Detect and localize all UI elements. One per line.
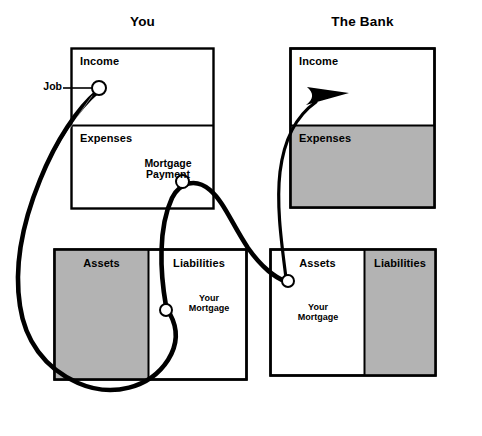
diagram-canvas xyxy=(0,0,482,436)
bank-liabilities-shaded-fill xyxy=(365,251,435,375)
bank-expenses-label: Expenses xyxy=(299,132,351,144)
cashflow-diagram: You The Bank Income Expenses Income Expe… xyxy=(0,0,482,436)
you-balance-sheet-box xyxy=(55,250,247,380)
you-liabilities-label: Liabilities xyxy=(155,257,243,269)
flow-label-job: Job xyxy=(28,81,62,92)
you-assets-label: Assets xyxy=(56,257,147,269)
panel-title-the-bank: The Bank xyxy=(290,14,435,29)
panel-title-you: You xyxy=(71,14,214,29)
you-liabilities-entry-line2: Mortgage xyxy=(175,304,243,314)
bank-income-label: Income xyxy=(299,55,338,67)
you-assets-shaded-fill xyxy=(56,251,149,379)
you-income-label: Income xyxy=(80,55,119,67)
bank-assets-node-dot xyxy=(281,274,295,288)
bank-income-statement-box xyxy=(291,49,435,208)
you-liabilities-entry: Your Mortgage xyxy=(175,294,243,313)
you-expenses-label: Expenses xyxy=(80,132,132,144)
bank-assets-entry: Your Mortgage xyxy=(283,303,353,322)
flow-label-mortgage-payment: Mortgage Payment xyxy=(126,158,210,181)
your-mortgage-node-dot xyxy=(159,303,173,317)
job-node-dot xyxy=(91,80,107,96)
bank-assets-label: Assets xyxy=(272,257,363,269)
bank-assets-entry-line2: Mortgage xyxy=(283,313,353,323)
flow-label-mortgage-payment-line2: Payment xyxy=(126,169,210,180)
bank-liabilities-label: Liabilities xyxy=(366,257,434,269)
